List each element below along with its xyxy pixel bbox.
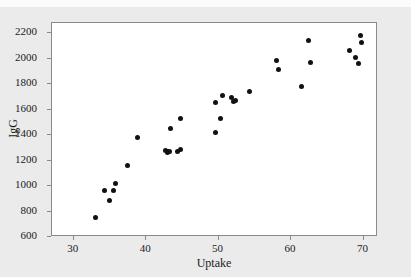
x-tick-label: 40 bbox=[125, 242, 165, 254]
data-point bbox=[107, 198, 112, 203]
y-tick-label: 2000 bbox=[1, 52, 37, 63]
data-point bbox=[306, 38, 311, 43]
data-point bbox=[233, 98, 238, 103]
data-point bbox=[168, 126, 173, 131]
data-point bbox=[308, 60, 313, 65]
y-tick-label: 800 bbox=[1, 205, 37, 216]
plot-area bbox=[51, 22, 377, 236]
data-point bbox=[135, 135, 140, 140]
data-point bbox=[356, 61, 361, 66]
x-tick-label: 70 bbox=[343, 242, 383, 254]
figure-top-strip bbox=[0, 0, 411, 7]
y-tick-label: 1400 bbox=[1, 128, 37, 139]
x-tick-mark bbox=[73, 236, 74, 240]
data-point bbox=[347, 48, 352, 53]
y-tick-label: 1800 bbox=[1, 77, 37, 88]
x-tick-mark bbox=[363, 236, 364, 240]
y-tick-label: 600 bbox=[1, 230, 37, 241]
data-point bbox=[247, 89, 252, 94]
data-point bbox=[213, 100, 218, 105]
data-point bbox=[299, 84, 304, 89]
data-point bbox=[358, 33, 363, 38]
x-tick-mark bbox=[218, 236, 219, 240]
x-tick-mark bbox=[145, 236, 146, 240]
x-tick-mark bbox=[290, 236, 291, 240]
x-axis-title: Uptake bbox=[51, 256, 377, 271]
y-tick-label: 2200 bbox=[1, 26, 37, 37]
data-point bbox=[93, 215, 98, 220]
y-tick-label: 1600 bbox=[1, 103, 37, 114]
data-point bbox=[276, 67, 281, 72]
data-point bbox=[274, 58, 279, 63]
data-point bbox=[178, 147, 183, 152]
data-point bbox=[102, 188, 107, 193]
data-point bbox=[218, 116, 223, 121]
x-tick-label: 30 bbox=[53, 242, 93, 254]
y-tick-label: 1000 bbox=[1, 179, 37, 190]
scatter-plot-figure: IgG 6008001000120014001600180020002200 3… bbox=[0, 0, 411, 277]
data-point bbox=[111, 188, 116, 193]
x-tick-label: 50 bbox=[198, 242, 238, 254]
data-point bbox=[220, 93, 225, 98]
data-point bbox=[167, 149, 172, 154]
data-point bbox=[125, 163, 130, 168]
y-tick-label: 1200 bbox=[1, 154, 37, 165]
data-point bbox=[359, 40, 364, 45]
data-point bbox=[213, 130, 218, 135]
data-point bbox=[113, 181, 118, 186]
data-point bbox=[353, 55, 358, 60]
y-tick-mark bbox=[47, 236, 51, 237]
x-tick-label: 60 bbox=[270, 242, 310, 254]
data-point bbox=[178, 116, 183, 121]
